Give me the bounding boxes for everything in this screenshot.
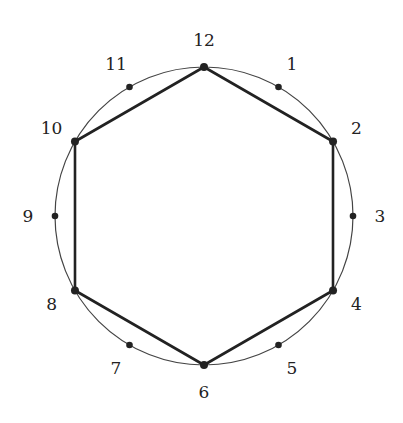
label-12: 12 bbox=[193, 30, 215, 50]
clock-hexagon-diagram: 121234567891011 bbox=[0, 0, 403, 423]
point-10 bbox=[71, 138, 79, 146]
label-6: 6 bbox=[199, 382, 210, 402]
label-3: 3 bbox=[375, 206, 386, 226]
hexagon bbox=[75, 67, 333, 365]
label-1: 1 bbox=[287, 54, 298, 74]
label-5: 5 bbox=[287, 358, 298, 378]
point-3 bbox=[350, 213, 357, 220]
label-2: 2 bbox=[351, 118, 362, 138]
point-7 bbox=[126, 342, 133, 349]
point-9 bbox=[52, 213, 59, 220]
clock-circle bbox=[55, 67, 353, 365]
point-2 bbox=[329, 138, 337, 146]
point-6 bbox=[200, 361, 208, 369]
label-4: 4 bbox=[351, 294, 362, 314]
point-4 bbox=[329, 287, 337, 295]
point-12 bbox=[200, 63, 208, 71]
point-8 bbox=[71, 287, 79, 295]
point-11 bbox=[126, 84, 133, 91]
label-7: 7 bbox=[111, 358, 122, 378]
point-5 bbox=[275, 342, 282, 349]
point-1 bbox=[275, 84, 282, 91]
label-9: 9 bbox=[23, 206, 34, 226]
label-8: 8 bbox=[46, 294, 57, 314]
label-10: 10 bbox=[41, 118, 63, 138]
label-11: 11 bbox=[105, 54, 127, 74]
